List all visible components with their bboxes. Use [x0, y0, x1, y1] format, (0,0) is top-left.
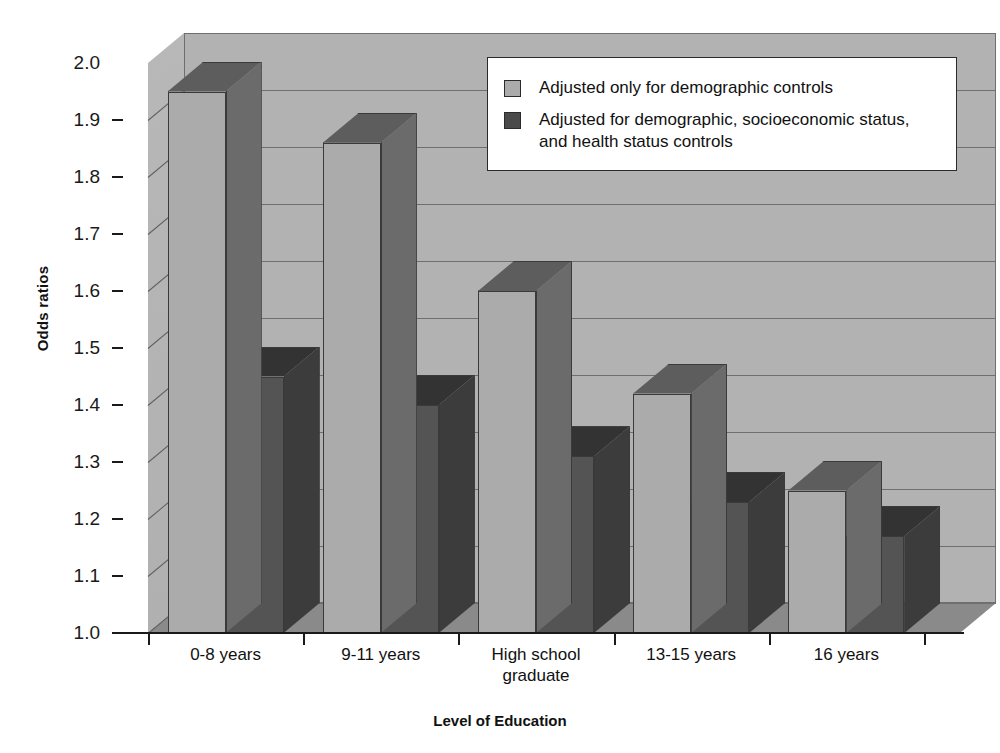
- y-tick-label: 1.8: [38, 166, 100, 188]
- bar: [633, 364, 727, 633]
- odds-ratio-bar-chart: 2.01.91.81.71.61.51.41.31.21.11.0 0-8 ye…: [0, 0, 1000, 753]
- gridline: [184, 204, 996, 205]
- y-tick-label: 2.0: [38, 52, 100, 74]
- bar-side-face: [594, 426, 630, 633]
- bar: [168, 62, 262, 634]
- x-category-label: 16 years: [751, 644, 941, 665]
- bar: [323, 113, 417, 633]
- y-tick-label: 1.7: [38, 223, 100, 245]
- bar-side-face: [284, 347, 320, 634]
- y-tick-label: 1.4: [38, 394, 100, 416]
- x-axis-line: [112, 632, 964, 634]
- bar-front-face: [168, 92, 226, 634]
- gridline: [184, 261, 996, 262]
- y-tick-mark: [112, 290, 123, 292]
- y-tick-mark: [112, 632, 123, 634]
- bar: [478, 261, 572, 633]
- y-tick-mark: [112, 119, 123, 121]
- y-tick-mark: [112, 461, 123, 463]
- y-tick-label: 1.2: [38, 508, 100, 530]
- x-category-line: graduate: [441, 665, 631, 686]
- y-tick-mark: [112, 347, 123, 349]
- y-tick-label: 1.3: [38, 451, 100, 473]
- legend-label-demographic: Adjusted only for demographic controls: [539, 77, 833, 99]
- legend-label-full-adjustment: Adjusted for demographic, socioeconomic …: [539, 109, 940, 153]
- bar-side-face: [536, 261, 572, 633]
- y-tick-label: 1.9: [38, 109, 100, 131]
- bar-front-face: [478, 291, 536, 633]
- x-axis-title: Level of Education: [0, 712, 1000, 729]
- y-tick-mark: [112, 233, 123, 235]
- legend-swatch-light-icon: [504, 80, 521, 97]
- chart-legend: Adjusted only for demographic controls A…: [487, 57, 957, 171]
- y-tick-label: 1.0: [38, 622, 100, 644]
- gridline: [184, 318, 996, 319]
- bar-side-face: [381, 113, 417, 633]
- bar-front-face: [633, 394, 691, 633]
- y-axis-title: Odds ratios: [34, 249, 51, 369]
- y-tick-mark: [112, 176, 123, 178]
- y-tick-mark: [112, 518, 123, 520]
- bar-side-face: [691, 364, 727, 633]
- y-tick-label: 1.1: [38, 565, 100, 587]
- bar-front-face: [788, 491, 846, 634]
- y-tick-mark: [112, 575, 123, 577]
- bar-front-face: [323, 143, 381, 633]
- bar-side-face: [439, 375, 475, 633]
- bar-side-face: [226, 62, 262, 634]
- legend-item-full-adjustment: Adjusted for demographic, socioeconomic …: [504, 109, 940, 153]
- legend-swatch-dark-icon: [504, 112, 521, 129]
- x-category-line: 16 years: [751, 644, 941, 665]
- bar: [788, 461, 882, 634]
- legend-item-demographic: Adjusted only for demographic controls: [504, 77, 940, 99]
- bar-side-face: [846, 461, 882, 634]
- y-tick-mark: [112, 404, 123, 406]
